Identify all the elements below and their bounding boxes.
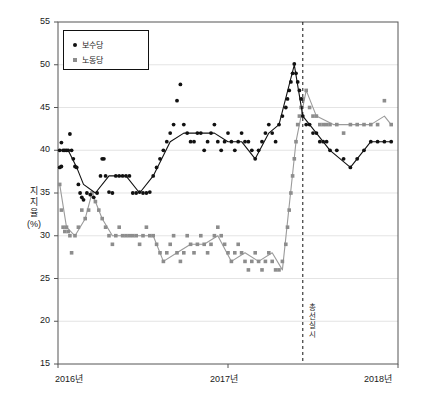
series-points-labour <box>58 89 393 272</box>
y-tick-label: 35 <box>28 187 50 197</box>
x-tick-label: 2016년 <box>55 372 83 385</box>
y-axis-title-char: 지 <box>26 197 42 208</box>
circle-marker-icon <box>73 43 77 47</box>
y-tick-label: 45 <box>28 102 50 112</box>
y-axis-title-char: (%) <box>26 219 42 230</box>
y-axis-title-char: 율 <box>26 208 42 219</box>
election-annotation-char: 총 <box>307 303 318 312</box>
y-tick-label: 15 <box>28 358 50 368</box>
x-tick-label: 2017년 <box>210 372 238 385</box>
x-tick-label: 2018년 <box>364 372 392 385</box>
election-annotation-char: 선 <box>307 312 318 321</box>
election-annotation-char: 시 <box>307 330 318 339</box>
y-tick-label: 50 <box>28 59 50 69</box>
chart-axis-ticks <box>54 22 398 368</box>
legend-item-labour: 노동당 <box>73 54 103 65</box>
y-tick-label: 55 <box>28 16 50 26</box>
legend-item-conservative: 보수당 <box>73 39 103 50</box>
y-tick-label: 20 <box>28 315 50 325</box>
legend-label-conservative: 보수당 <box>82 39 103 50</box>
series-trendline-conservative <box>60 65 392 193</box>
square-marker-icon <box>73 58 77 62</box>
election-annotation-label: 총선실시 <box>307 303 318 339</box>
chart-legend: 보수당 노동당 <box>63 30 149 70</box>
legend-label-labour: 노동당 <box>82 54 103 65</box>
y-tick-label: 40 <box>28 144 50 154</box>
y-tick-label: 30 <box>28 230 50 240</box>
y-tick-label: 25 <box>28 273 50 283</box>
election-annotation-char: 실 <box>307 321 318 330</box>
